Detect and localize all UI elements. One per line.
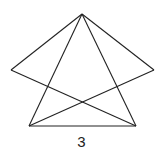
figure-lines <box>11 14 154 126</box>
figure-label: 3 <box>0 133 163 150</box>
segment-top-bottom_right <box>82 14 136 126</box>
segment-right-bottom_left <box>29 70 154 126</box>
segment-top-bottom_left <box>29 14 82 126</box>
segment-top-left <box>11 14 82 70</box>
segment-left-bottom_right <box>11 70 136 126</box>
segment-top-right <box>82 14 154 70</box>
